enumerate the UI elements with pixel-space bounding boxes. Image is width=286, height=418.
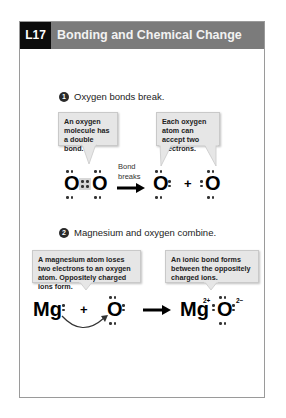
electron-transfer-arrow-icon	[60, 312, 110, 336]
electron-pair	[109, 296, 116, 299]
electron-pair	[94, 170, 101, 173]
lesson-number: L17	[20, 22, 51, 49]
electron-pair	[219, 322, 226, 325]
electron-pair	[155, 170, 162, 173]
step-number-badge: 2	[59, 228, 69, 238]
oxide-ion: O	[217, 298, 233, 321]
lesson-title: Bonding and Chemical Change	[57, 22, 242, 49]
electron-pair	[168, 180, 171, 187]
oxygen-atom: O	[153, 172, 169, 195]
callout-pointer	[78, 281, 94, 291]
charge-label: 2−	[236, 297, 243, 304]
step-2-text: Magnesium and oxygen combine.	[74, 227, 216, 238]
electron-pair	[122, 304, 125, 311]
electron-pair	[212, 304, 215, 311]
electron-pair	[232, 304, 235, 311]
callout-pointer	[203, 281, 219, 291]
charge-label: 2+	[203, 297, 210, 304]
callout-electron-transfer: A magnesium atom loses two electrons to …	[32, 250, 141, 283]
reaction-arrow-icon	[117, 183, 145, 193]
callout-double-bond: An oxygen molecule has a double bond.	[58, 112, 118, 146]
callout-ionic-bond: An ionic bond forms between the opposite…	[165, 250, 259, 283]
electron-pair	[207, 170, 214, 173]
step-number-badge: 1	[59, 92, 69, 102]
arrow-label-line2: breaks	[118, 172, 141, 182]
reaction-arrow-icon	[143, 305, 171, 315]
lesson-card: L17 Bonding and Chemical Change	[19, 21, 265, 398]
step-2-heading: 2 Magnesium and oxygen combine.	[59, 227, 216, 238]
callout-pointer	[80, 144, 100, 166]
callout-pointers	[156, 144, 222, 168]
oxygen-atom: O	[64, 172, 80, 195]
step-1-text: Oxygen bonds break.	[74, 91, 164, 102]
electron-pair	[66, 196, 73, 199]
electron-pair	[94, 196, 101, 199]
shared-electrons-box	[79, 178, 91, 190]
callout-accept-electrons: Each oxygen atom can accept two electron…	[156, 112, 220, 146]
valence-electrons	[62, 304, 65, 311]
plus-sign: +	[184, 176, 192, 191]
arrow-label-line1: Bond	[118, 162, 141, 172]
electron-pair	[109, 322, 116, 325]
step-1-heading: 1 Oxygen bonds break.	[59, 91, 164, 102]
oxygen-atom: O	[92, 172, 108, 195]
lesson-header: L17 Bonding and Chemical Change	[20, 22, 264, 49]
oxygen-atom: O	[205, 172, 221, 195]
callout-text: An ionic bond forms between the opposite…	[171, 255, 250, 282]
arrow-label: Bond breaks	[118, 162, 141, 182]
electron-pair	[155, 196, 162, 199]
electron-pair	[200, 180, 203, 187]
electron-pair	[66, 170, 73, 173]
electron-pair	[207, 196, 214, 199]
magnesium-atom: Mg	[33, 298, 62, 321]
electron-pair	[219, 296, 226, 299]
